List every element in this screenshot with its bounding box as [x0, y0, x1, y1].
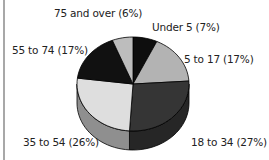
label-35-to-54: 35 to 54 (26%): [23, 136, 99, 148]
label-5-to-17: 5 to 17 (17%): [184, 53, 254, 65]
pie-top-face: [77, 37, 189, 131]
label-55-to-74: 55 to 74 (17%): [12, 44, 88, 56]
label-18-to-34: 18 to 34 (27%): [191, 136, 267, 148]
label-under-5: Under 5 (7%): [152, 21, 220, 33]
label-75-and-over: 75 and over (6%): [54, 7, 142, 19]
